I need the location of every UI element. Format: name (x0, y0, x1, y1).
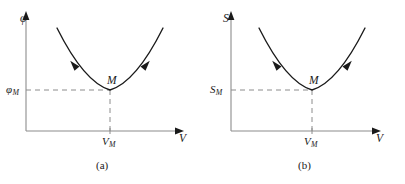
x-axis-tick-label: VM (304, 136, 317, 147)
panel-b: S V SM VM M (b) (200, 0, 402, 184)
y-axis-tick-label: φM (6, 84, 19, 95)
x-axis-tick-label-base: V (304, 135, 311, 147)
figure-two-panel-parabolas: φ V φM VM M (a) S V (0, 0, 405, 184)
panel-caption: (a) (96, 160, 108, 171)
y-axis-tick-label-base: S (210, 83, 216, 95)
minimum-point-label: M (107, 75, 117, 87)
y-axis-tick-label-subscript: M (216, 88, 223, 97)
panel-a: φ V φM VM M (a) (0, 0, 202, 184)
minimum-point-label: M (309, 75, 319, 87)
x-axis-tick-label-base: V (102, 135, 109, 147)
panel-a-plot (0, 0, 202, 184)
x-axis-label: V (179, 133, 186, 145)
y-axis-label: φ (20, 13, 26, 25)
y-axis-label: S (223, 13, 229, 25)
x-axis-tick-label-subscript: M (311, 140, 318, 149)
y-axis-tick-label-subscript: M (12, 88, 19, 97)
panel-caption: (b) (298, 160, 311, 171)
x-axis-label: V (376, 133, 383, 145)
x-axis-tick-label-subscript: M (109, 140, 116, 149)
x-axis-tick-label: VM (102, 136, 115, 147)
y-axis-tick-label: SM (210, 84, 222, 95)
panel-b-plot (200, 0, 402, 184)
